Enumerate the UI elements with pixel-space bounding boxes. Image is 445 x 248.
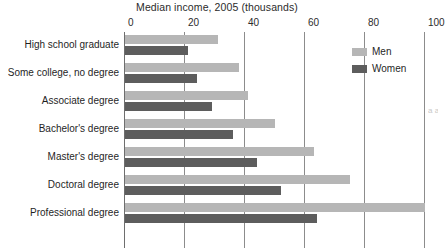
category-label: Doctoral degree [0,179,119,190]
bar-women [125,214,317,223]
bar-women [125,74,197,83]
category-label: Professional degree [0,207,119,218]
bar-women [125,130,233,139]
legend-label: Men [372,46,391,57]
x-tick-label: 100 [428,17,445,28]
bar-men [125,175,350,184]
bar-men [125,119,275,128]
category-label: Associate degree [0,95,119,106]
bar-men [125,147,314,156]
chart-title: Median income, 2005 (thousands) [0,1,434,13]
legend-swatch-icon [352,48,367,56]
bar-women [125,46,188,55]
clipped-margin-text: a a l a a a a [428,104,438,118]
x-axis-tick-labels: 020406080100 [0,17,434,31]
bar-group [124,200,424,228]
bar-women [125,102,212,111]
x-tick-label: 0 [128,17,134,28]
legend-label: Women [372,63,406,74]
category-label: Some college, no degree [0,67,119,78]
bar-group [124,172,424,200]
bar-group [124,116,424,144]
bar-group [124,88,424,116]
bar-women [125,186,281,195]
category-label: Master's degree [0,151,119,162]
category-label: High school graduate [0,39,119,50]
category-label: Bachelor's degree [0,123,119,134]
x-tick-label: 20 [188,17,199,28]
x-tick-label: 60 [308,17,319,28]
bar-women [125,158,257,167]
bar-men [125,35,218,44]
legend-item[interactable]: Women [352,61,426,76]
chart-legend: MenWomen [352,44,426,78]
legend-swatch-icon [352,65,367,73]
bar-men [125,91,248,100]
category-axis-labels: High school graduateSome college, no deg… [0,32,119,248]
legend-item[interactable]: Men [352,44,426,59]
x-tick-label: 80 [368,17,379,28]
bar-men [125,63,239,72]
bar-men [125,203,425,212]
x-tick-label: 40 [248,17,259,28]
bar-group [124,144,424,172]
